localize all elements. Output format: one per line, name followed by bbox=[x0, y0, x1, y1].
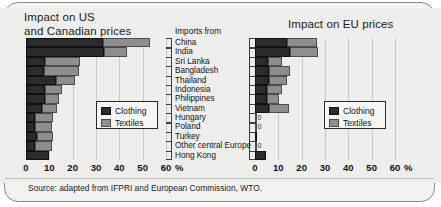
x-axis-right: 0102030405060% bbox=[255, 160, 415, 176]
category-tick bbox=[249, 113, 255, 114]
legend-item-textiles-left: Textiles bbox=[101, 117, 152, 128]
bar-segment-textiles bbox=[37, 132, 53, 141]
x-tick-label: 50 bbox=[366, 162, 377, 173]
bar-segment-textiles bbox=[35, 113, 53, 122]
bar-row bbox=[26, 151, 166, 160]
x-tick-label: 40 bbox=[343, 162, 354, 173]
bar-row: 0 bbox=[255, 141, 395, 150]
legend-swatch-textiles-icon bbox=[329, 119, 339, 127]
bar-row bbox=[26, 57, 166, 66]
bar-value-label: 0 bbox=[258, 122, 262, 131]
bar-segment-clothing bbox=[255, 57, 268, 66]
bar-segment-textiles bbox=[268, 57, 282, 66]
legend-item-clothing-right: Clothing bbox=[329, 105, 380, 116]
x-axis-unit-label: % bbox=[175, 162, 183, 173]
bar-value-label: 0 bbox=[258, 141, 262, 150]
category-tick bbox=[249, 104, 255, 105]
category-ticks-left bbox=[166, 38, 172, 160]
bar-segment-clothing bbox=[255, 132, 257, 141]
chart-figure: Impact on US and Canadian prices Impact … bbox=[0, 0, 441, 207]
bar-segment-clothing bbox=[26, 94, 45, 103]
category-label: China bbox=[175, 38, 196, 47]
chart-title-right: Impact on EU prices bbox=[288, 18, 393, 32]
category-tick bbox=[249, 38, 255, 39]
bar-segment-textiles bbox=[42, 104, 57, 113]
legend-swatch-clothing-icon bbox=[329, 107, 339, 115]
bar-segment-textiles bbox=[35, 122, 51, 131]
x-tick-label: 50 bbox=[137, 162, 148, 173]
bar-segment-textiles bbox=[44, 66, 79, 75]
gridline bbox=[395, 38, 396, 160]
bar-segment-clothing bbox=[26, 66, 44, 75]
bar-row bbox=[255, 151, 395, 160]
category-tick bbox=[249, 151, 255, 152]
category-label: Sri Lanka bbox=[175, 57, 210, 66]
bar-row bbox=[255, 57, 395, 66]
bar-segment-clothing bbox=[255, 151, 266, 160]
category-label: Hong Kong bbox=[175, 151, 216, 160]
category-tick bbox=[166, 94, 172, 95]
bar-row bbox=[26, 76, 166, 85]
bar-segment-clothing bbox=[26, 113, 35, 122]
chart-title-left: Impact on US and Canadian prices bbox=[24, 11, 131, 38]
bar-segment-textiles bbox=[45, 85, 63, 94]
x-tick-label: 0 bbox=[23, 162, 28, 173]
bar-row bbox=[255, 132, 395, 141]
bar-row bbox=[26, 85, 166, 94]
category-label: Hungary bbox=[175, 113, 206, 122]
bar-segment-textiles bbox=[104, 47, 127, 56]
imports-from-header: Imports from bbox=[175, 27, 221, 36]
category-label: Turkey bbox=[175, 132, 200, 141]
x-tick-label: 30 bbox=[320, 162, 331, 173]
bar-row bbox=[26, 66, 166, 75]
bar-segment-clothing bbox=[26, 122, 35, 131]
category-tick bbox=[166, 66, 172, 67]
legend-item-textiles-right: Textiles bbox=[329, 117, 380, 128]
x-tick-label: 20 bbox=[296, 162, 307, 173]
bar-segment-textiles bbox=[269, 104, 289, 113]
category-tick bbox=[166, 57, 172, 58]
legend-right: Clothing Textiles bbox=[324, 101, 386, 129]
bar-segment-clothing bbox=[255, 47, 290, 56]
legend-item-clothing-left: Clothing bbox=[101, 105, 152, 116]
legend-label-clothing: Clothing bbox=[343, 106, 375, 116]
bar-segment-clothing bbox=[26, 132, 37, 141]
bar-row bbox=[255, 47, 395, 56]
bar-segment-textiles bbox=[45, 57, 80, 66]
plot-area-eu: 000 bbox=[255, 38, 395, 160]
category-tick bbox=[249, 122, 255, 123]
category-label: India bbox=[175, 47, 193, 56]
x-tick-label: 0 bbox=[252, 162, 257, 173]
footer-divider bbox=[5, 178, 434, 179]
category-tick bbox=[166, 132, 172, 133]
bar-segment-clothing bbox=[255, 66, 269, 75]
bar-segment-clothing bbox=[255, 94, 267, 103]
category-tick bbox=[249, 57, 255, 58]
legend-left: Clothing Textiles bbox=[96, 101, 158, 129]
x-tick-label: 20 bbox=[67, 162, 78, 173]
source-note: Source: adapted from IFPRI and European … bbox=[28, 183, 262, 193]
category-tick bbox=[166, 38, 172, 39]
legend-swatch-clothing-icon bbox=[101, 107, 111, 115]
category-tick bbox=[166, 141, 172, 142]
x-tick-label: 10 bbox=[273, 162, 284, 173]
category-tick bbox=[166, 113, 172, 114]
legend-label-clothing: Clothing bbox=[115, 106, 147, 116]
category-tick bbox=[249, 47, 255, 48]
category-tick bbox=[249, 94, 255, 95]
x-tick-label: 60 bbox=[161, 162, 172, 173]
x-tick-label: 30 bbox=[91, 162, 102, 173]
category-tick bbox=[249, 132, 255, 133]
bar-row bbox=[255, 38, 395, 47]
bar-row bbox=[255, 85, 395, 94]
category-label: Other central Europe bbox=[175, 141, 251, 150]
bar-segment-clothing bbox=[255, 38, 287, 47]
bar-segment-clothing bbox=[26, 47, 104, 56]
bar-segment-clothing bbox=[26, 151, 49, 160]
category-tick bbox=[166, 76, 172, 77]
bar-segment-textiles bbox=[267, 94, 280, 103]
bar-segment-clothing bbox=[26, 76, 56, 85]
category-label: Philippines bbox=[175, 94, 215, 103]
bar-segment-textiles bbox=[269, 76, 287, 85]
category-tick bbox=[166, 85, 172, 86]
